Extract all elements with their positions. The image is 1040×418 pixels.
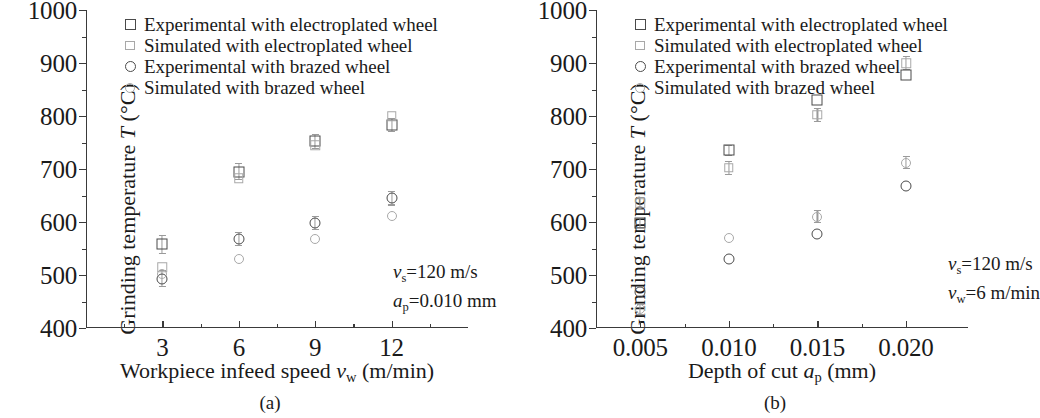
- circle-dark-icon: [812, 228, 823, 239]
- square-dark-icon: [901, 70, 912, 81]
- x-axis-title-a: Workpiece infeed speed vw (m/min): [86, 358, 468, 386]
- panel-caption-a: (a): [0, 392, 500, 414]
- x-axis-title-sub-b: p: [814, 369, 821, 385]
- y-tick-label-a: 1000: [28, 0, 77, 23]
- y-minor-tick-a: [82, 196, 87, 197]
- square-light-icon: [901, 58, 911, 68]
- square-light-icon: [635, 41, 645, 51]
- x-axis-title-sub-a: w: [346, 369, 356, 385]
- x-tick-b: [906, 321, 907, 328]
- y-minor-tick-a: [82, 90, 87, 91]
- data-point: [635, 286, 646, 297]
- y-tick-b: [589, 169, 596, 170]
- legend-item-a: Experimental with electroplated wheel: [116, 14, 438, 35]
- legend-label-b: Experimental with electroplated wheel: [654, 14, 948, 35]
- square-dark-icon: [812, 95, 823, 106]
- data-point: [635, 218, 646, 229]
- data-point: [723, 145, 734, 156]
- plot-area-a: Experimental with electroplated wheelSim…: [86, 10, 468, 328]
- y-tick-label-b: 600: [550, 210, 587, 235]
- circle-dark-icon: [635, 286, 646, 297]
- annotation-var: a: [393, 290, 403, 311]
- y-axis-line-a: [86, 10, 87, 328]
- legend-label-a: Simulated with brazed wheel: [144, 77, 365, 98]
- x-axis-title-suffix-b: (mm): [822, 358, 876, 383]
- circle-dark-icon: [635, 61, 646, 72]
- square-light-icon: [724, 163, 734, 173]
- legend-a: Experimental with electroplated wheelSim…: [116, 14, 438, 98]
- y-tick-label-a: 800: [40, 104, 77, 129]
- y-tick-label-a: 400: [40, 316, 77, 341]
- square-dark-icon: [723, 145, 734, 156]
- annotation-value: =6 m/min: [966, 282, 1040, 303]
- data-point: [387, 111, 397, 121]
- data-point: [812, 95, 823, 106]
- y-minor-tick-a: [82, 249, 87, 250]
- y-tick-label-a: 700: [40, 157, 77, 182]
- square-dark-icon: [635, 19, 646, 30]
- circle-light-icon: [901, 158, 911, 168]
- circle-dark-icon: [386, 193, 397, 204]
- x-tick-b: [817, 321, 818, 328]
- circle-dark-icon: [233, 233, 244, 244]
- data-point: [233, 233, 244, 244]
- x-tick-label-b: 0.020: [878, 335, 933, 360]
- legend-marker-a: [116, 83, 144, 93]
- y-minor-tick-b: [592, 90, 597, 91]
- circle-dark-icon: [723, 254, 734, 265]
- square-dark-icon: [386, 120, 397, 131]
- data-point: [724, 163, 734, 173]
- data-point: [901, 58, 911, 68]
- y-tick-a: [79, 328, 86, 329]
- y-tick-label-b: 700: [550, 157, 587, 182]
- legend-marker-a: [116, 41, 144, 51]
- y-tick-label-a: 900: [40, 51, 77, 76]
- annotation-line-a: vs=120 m/s: [393, 258, 497, 287]
- circle-light-icon: [157, 269, 167, 279]
- data-point: [901, 180, 912, 191]
- circle-dark-icon: [125, 61, 136, 72]
- x-tick-label-a: 12: [379, 335, 404, 360]
- circle-light-icon: [387, 211, 397, 221]
- square-light-icon: [636, 199, 646, 209]
- y-minor-tick-b: [592, 143, 597, 144]
- square-light-icon: [813, 110, 823, 120]
- data-point: [157, 269, 167, 279]
- data-point: [310, 218, 321, 229]
- x-axis-title-var-b: a: [803, 358, 814, 383]
- square-light-icon: [310, 140, 320, 150]
- y-minor-tick-b: [592, 249, 597, 250]
- x-tick-a: [162, 321, 163, 328]
- square-light-icon: [234, 173, 244, 183]
- data-point: [386, 120, 397, 131]
- legend-marker-a: [116, 61, 144, 72]
- x-tick-b: [729, 321, 730, 328]
- x-tick-label-a: 6: [233, 335, 245, 360]
- data-point: [157, 239, 168, 250]
- square-light-icon: [387, 111, 397, 121]
- square-dark-icon: [157, 239, 168, 250]
- annotation-line-b: vs=120 m/s: [948, 250, 1040, 279]
- circle-dark-icon: [901, 180, 912, 191]
- x-minor-tick-b: [685, 324, 686, 329]
- y-tick-label-b: 800: [550, 104, 587, 129]
- y-tick-a: [79, 10, 86, 11]
- data-point: [310, 234, 320, 244]
- circle-light-icon: [125, 83, 135, 93]
- panel-caption-b: (b): [500, 392, 1000, 414]
- y-minor-tick-a: [82, 37, 87, 38]
- annotation-a: vs=120 m/sap=0.010 mm: [393, 258, 497, 315]
- y-tick-a: [79, 275, 86, 276]
- legend-marker-b: [626, 41, 654, 51]
- y-tick-b: [589, 222, 596, 223]
- circle-light-icon: [234, 254, 244, 264]
- circle-light-icon: [635, 304, 645, 314]
- legend-item-b: Simulated with electroplated wheel: [626, 35, 948, 56]
- annotation-line-b: vw=6 m/min: [948, 279, 1040, 308]
- annotation-line-a: ap=0.010 mm: [393, 287, 497, 316]
- annotation-value: =120 m/s: [961, 253, 1032, 274]
- x-minor-tick-a: [277, 324, 278, 329]
- y-axis-line-b: [596, 10, 597, 328]
- y-minor-tick-a: [82, 143, 87, 144]
- circle-light-icon: [635, 83, 645, 93]
